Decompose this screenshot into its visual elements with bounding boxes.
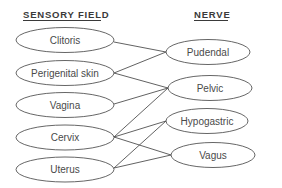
connections [114, 42, 171, 168]
label-uterus: Uterus [50, 164, 79, 175]
header-sensory-field: SENSORY FIELD [23, 9, 109, 20]
label-perigenital-skin: Perigenital skin [31, 68, 99, 79]
label-vagina: Vagina [50, 100, 81, 111]
label-cervix: Cervix [51, 132, 79, 143]
label-pelvic: Pelvic [197, 83, 224, 94]
edge-vagina-pelvic [114, 88, 168, 104]
sensory-nerve-diagram: SENSORY FIELD NERVE Clitoris Perigenital… [0, 0, 282, 188]
sensory-field-vagina: Vagina [16, 93, 114, 118]
nerve-hypogastric: Hypogastric [166, 109, 248, 134]
edge-clitoris-pudendal [114, 42, 166, 52]
edge-cervix-vagus [114, 137, 171, 155]
label-clitoris: Clitoris [50, 35, 81, 46]
label-pudendal: Pudendal [187, 47, 229, 58]
edge-cervix-hypogastric [114, 121, 166, 137]
sensory-field-clitoris: Clitoris [16, 28, 114, 53]
label-vagus: Vagus [199, 150, 227, 161]
edge-cervix-pelvic [114, 88, 168, 137]
edge-uterus-hypogastric [114, 121, 166, 168]
sensory-field-perigenital-skin: Perigenital skin [16, 61, 114, 86]
sensory-field-uterus: Uterus [16, 157, 114, 182]
nerve-pudendal: Pudendal [166, 40, 250, 65]
label-hypogastric: Hypogastric [181, 116, 234, 127]
nerve-pelvic: Pelvic [168, 76, 252, 101]
edge-uterus-vagus [114, 155, 171, 168]
sensory-field-cervix: Cervix [16, 125, 114, 150]
nerve-vagus: Vagus [171, 143, 255, 168]
header-nerve: NERVE [194, 9, 231, 20]
edge-perigenital-pudendal [114, 52, 166, 73]
edge-perigenital-pelvic [114, 73, 168, 88]
